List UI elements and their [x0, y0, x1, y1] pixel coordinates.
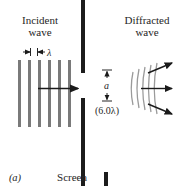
- diffracted-wavefront: [131, 72, 133, 105]
- slit-width-symbol: a: [104, 80, 109, 91]
- diffraction-figure: Incident wave Diffracted wave: [0, 0, 176, 191]
- wavelength-symbol-label: λ: [46, 47, 52, 58]
- slit-width-dimension: a (6.0λ): [95, 70, 119, 117]
- screen-caption-bar: [104, 172, 108, 186]
- screen-caption: Screen: [40, 172, 104, 184]
- slit-width-value: (6.0λ): [95, 105, 119, 117]
- panel-label: (a): [4, 172, 26, 183]
- diffracted-ray-down: [148, 104, 172, 114]
- figure-vector-overlay: λ a (6.0λ): [0, 0, 176, 191]
- diffracted-ray-up: [148, 63, 172, 73]
- wavelength-measure: λ: [23, 47, 52, 58]
- diffracted-ray-group: [141, 63, 172, 114]
- diffracted-wavefront: [137, 69, 139, 108]
